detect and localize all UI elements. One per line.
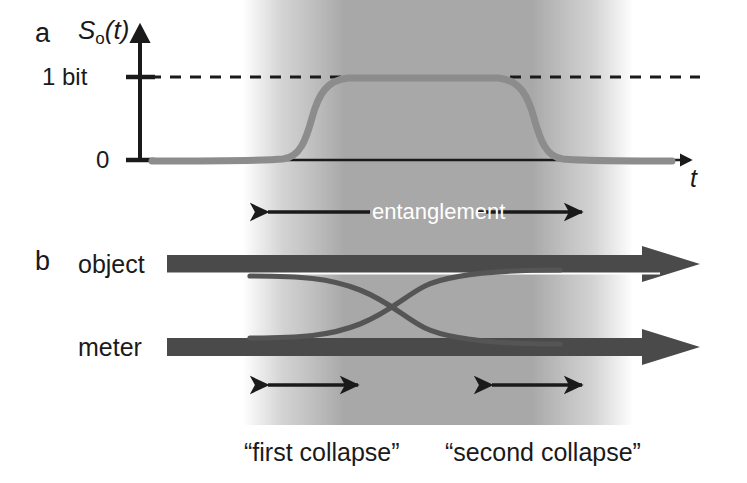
y-axis-label: So(t): [78, 17, 129, 47]
panel-a-letter: a: [35, 20, 50, 47]
y-axis-label-symbol: S: [78, 15, 95, 45]
y-axis-label-argument: (t): [105, 15, 130, 45]
x-axis-label-t: t: [690, 166, 697, 191]
y-tick-label-zero: 0: [96, 148, 109, 172]
figure-canvas: [0, 0, 747, 483]
meter-row-label: meter: [78, 335, 142, 360]
first-collapse-label: “first collapse”: [244, 440, 400, 465]
second-collapse-label: “second collapse”: [445, 440, 641, 465]
panel-b-letter: b: [35, 248, 50, 275]
y-tick-label-1bit: 1 bit: [42, 65, 87, 89]
y-axis-label-subscript: o: [95, 29, 104, 48]
figure-root: a So(t) 1 bit 0 t entanglement b object …: [0, 0, 747, 483]
entanglement-label: entanglement: [372, 201, 505, 223]
object-row-label: object: [78, 252, 145, 277]
